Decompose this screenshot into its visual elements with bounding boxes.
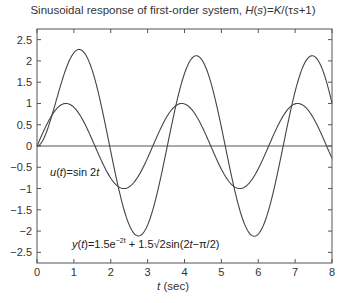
x-tick-label: 0 (34, 266, 40, 278)
plot-area: 0123456782.521.510.50−0.5−1−1.5−2−2.5 (0, 0, 346, 303)
annotation-u: u(t)=sin 2t (50, 166, 99, 178)
curves (37, 49, 332, 236)
y-tick-label: 0 (26, 140, 32, 152)
x-axis-label: t (sec) (0, 280, 346, 292)
y-tick-label: −2.5 (10, 246, 32, 258)
x-tick-label: 1 (71, 266, 77, 278)
y-tick-label: −1.5 (10, 204, 32, 216)
y-tick-label: 2 (26, 55, 32, 67)
y-tick-label: −1 (19, 183, 32, 195)
y-tick-label: 1.5 (17, 76, 32, 88)
y-tick-label: −2 (19, 225, 32, 237)
x-tick-label: 3 (145, 266, 151, 278)
x-tick-label: 5 (218, 266, 224, 278)
curve-y (37, 49, 332, 236)
y-tick-label: 0.5 (17, 119, 32, 131)
x-tick-label: 8 (329, 266, 335, 278)
x-tick-label: 7 (292, 266, 298, 278)
annotation-y: y(t)=1.5e−2t + 1.5√2sin(2t−π/2) (72, 237, 219, 250)
y-tick-label: −0.5 (10, 161, 32, 173)
y-tick-label: 2.5 (17, 34, 32, 46)
x-tick-label: 6 (255, 266, 261, 278)
x-tick-label: 2 (108, 266, 114, 278)
y-tick-label: 1 (26, 97, 32, 109)
x-tick-label: 4 (181, 266, 187, 278)
